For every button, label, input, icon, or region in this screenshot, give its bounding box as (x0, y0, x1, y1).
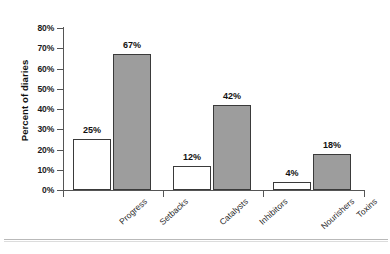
bar-value-label: 4% (273, 169, 311, 178)
plot-area (63, 28, 365, 190)
category-label-progress: Progress (118, 197, 149, 226)
y-axis-tick-label: 70% (38, 44, 54, 53)
bar-toxins (313, 154, 351, 190)
x-axis-line (63, 190, 365, 191)
y-axis-tick-label: 30% (38, 125, 54, 134)
category-label-catalysts: Catalysts (218, 197, 250, 227)
bar-value-label: 25% (73, 126, 111, 135)
category-label-nourishers: Nourishers (320, 197, 356, 231)
y-axis-tick-label: 0% (42, 186, 54, 195)
y-axis-tick-label: 10% (38, 166, 54, 175)
bar-value-label: 42% (213, 92, 251, 101)
y-axis-tick-label: 50% (38, 85, 54, 94)
x-axis-tick (263, 191, 264, 197)
bar-catalysts (173, 166, 211, 190)
bar-value-label: 12% (173, 153, 211, 162)
y-axis-tick-label: 20% (38, 146, 54, 155)
y-axis-title: Percent of diaries (19, 41, 30, 161)
bar-progress (73, 139, 111, 190)
y-axis-tick-label: 40% (38, 105, 54, 114)
category-label-setbacks: Setbacks (158, 197, 190, 227)
x-axis-tick (163, 191, 164, 197)
bar-value-label: 18% (313, 141, 351, 150)
category-label-toxins: Toxins (355, 197, 379, 219)
bar-setbacks (113, 54, 151, 190)
x-axis-tick (63, 191, 64, 197)
page-divider-rule-shadow (4, 241, 388, 242)
y-axis-tick-label: 60% (38, 65, 54, 74)
bar-chart-figure: Percent of diaries 0%10%20%30%40%50%60%7… (0, 0, 390, 254)
category-label-inhibitors: Inhibitors (258, 197, 289, 226)
x-axis-tick (364, 191, 365, 197)
bar-value-label: 67% (113, 41, 151, 50)
bar-nourishers (273, 182, 311, 190)
page-divider-rule (4, 239, 388, 240)
y-axis-tick-label: 80% (38, 24, 54, 33)
bar-inhibitors (213, 105, 251, 190)
